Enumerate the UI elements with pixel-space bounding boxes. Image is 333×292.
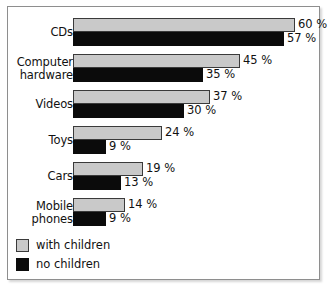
category-label: Toys — [0, 126, 73, 155]
bar-value-label: 24 % — [162, 125, 194, 139]
bar-value-label: 57 % — [284, 31, 316, 45]
bar-with-children — [73, 162, 143, 176]
bar-no-children — [73, 140, 106, 154]
bar-value-label: 14 % — [125, 197, 157, 211]
bar-row: CDs60 %57 % — [8, 18, 321, 47]
gray-swatch — [16, 239, 29, 252]
black-swatch — [16, 258, 29, 271]
bar-with-children — [73, 90, 210, 104]
bar-value-label: 30 % — [184, 103, 216, 117]
bar-no-children — [73, 176, 121, 190]
bar-with-children — [73, 18, 295, 32]
bar-group: 45 %35 % — [73, 54, 321, 83]
bar-group: 14 %9 % — [73, 198, 321, 227]
legend-item: with children — [16, 237, 196, 254]
bar-row: Cars19 %13 % — [8, 162, 321, 191]
bar-value-label: 37 % — [210, 89, 242, 103]
legend-label: with children — [36, 239, 110, 252]
category-label: CDs — [0, 18, 73, 47]
bar-with-children — [73, 54, 240, 68]
bar-with-children — [73, 198, 125, 212]
legend-label: no children — [36, 258, 100, 271]
legend-item: no children — [16, 256, 196, 273]
bar-no-children — [73, 104, 184, 118]
bar-row: Computer hardware45 %35 % — [8, 54, 321, 83]
bar-no-children — [73, 68, 203, 82]
bar-no-children — [73, 32, 284, 46]
bar-value-label: 9 % — [106, 139, 131, 153]
bar-no-children — [73, 212, 106, 226]
bar-group: 60 %57 % — [73, 18, 321, 47]
bar-row: Toys24 %9 % — [8, 126, 321, 155]
bar-with-children — [73, 126, 162, 140]
bar-value-label: 9 % — [106, 211, 131, 225]
category-label: Computer hardware — [0, 54, 73, 83]
bar-value-label: 19 % — [143, 161, 175, 175]
chart-frame-border: CDs60 %57 %Computer hardware45 %35 %Vide… — [7, 6, 320, 280]
bar-group: 19 %13 % — [73, 162, 321, 191]
bar-value-label: 60 % — [295, 17, 327, 31]
category-label: Videos — [0, 90, 73, 119]
bar-group: 37 %30 % — [73, 90, 321, 119]
bar-value-label: 35 % — [203, 67, 235, 81]
bar-value-label: 13 % — [121, 175, 153, 189]
bar-chart-figure: CDs60 %57 %Computer hardware45 %35 %Vide… — [0, 0, 333, 292]
bar-row: Mobile phones14 %9 % — [8, 198, 321, 227]
bar-value-label: 45 % — [240, 53, 272, 67]
category-label: Cars — [0, 162, 73, 191]
category-label: Mobile phones — [0, 198, 73, 227]
bar-row: Videos37 %30 % — [8, 90, 321, 119]
bar-group: 24 %9 % — [73, 126, 321, 155]
chart-legend: with childrenno children — [16, 237, 196, 275]
